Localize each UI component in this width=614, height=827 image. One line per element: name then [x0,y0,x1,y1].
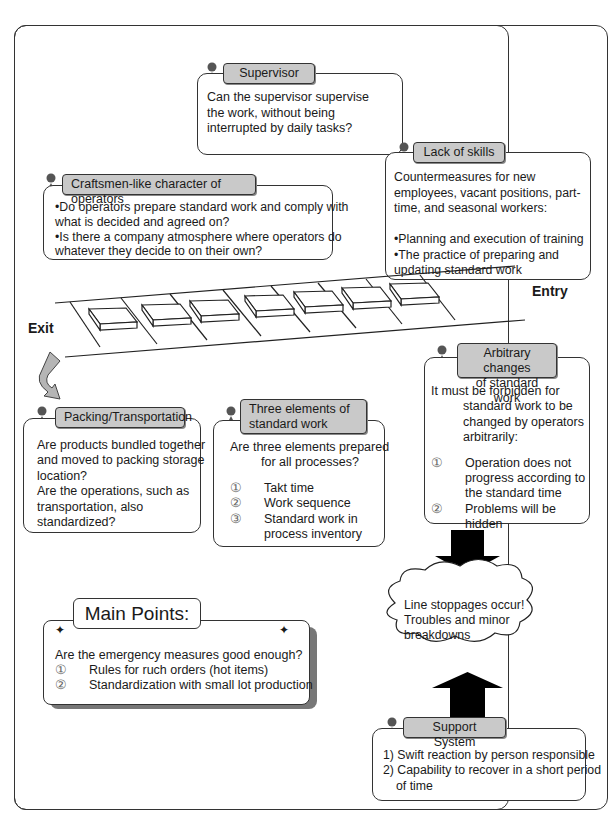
packing-tag: Packing/Transportation [55,407,185,428]
up-arrow-icon [432,672,503,720]
main-points-title-box: Main Points: [73,598,201,629]
three-elements-text: Are three elements prepared for all proc… [230,440,389,542]
list-item: ②Work sequence [230,496,389,511]
support-text: 1) Swift reaction by person responsible … [383,748,601,794]
main-points-text: Are the emergency measures good enough? … [55,648,313,693]
arbitrary-tag: Arbitrary changes of standard work [457,343,557,378]
list-item: process inventory [230,527,389,542]
list-item: ③Standard work in [230,512,389,527]
conveyor-items [89,283,439,330]
exit-label: Exit [28,320,54,336]
list-item: ②Standardization with small lot producti… [55,678,313,693]
packing-text: Are products bundled together and moved … [37,438,205,530]
list-item: ①Operation does not [431,456,585,471]
sparkle-icon: ✦ [55,623,65,637]
three-elements-tag: Three elements of standard work [240,399,367,434]
support-tag: Support System [403,717,506,738]
arbitrary-text: It must be forbidden for standard work t… [431,384,585,533]
list-item: ②Problems will be [431,502,585,517]
sparkle-icon: ✦ [279,623,289,637]
curved-arrow-icon [39,352,60,399]
list-item: ①Takt time [230,481,389,496]
cloud-text: Line stoppages occur! Troubles and minor… [404,598,524,643]
entry-label: Entry [532,283,568,299]
list-item: ①Rules for ruch orders (hot items) [55,663,313,678]
